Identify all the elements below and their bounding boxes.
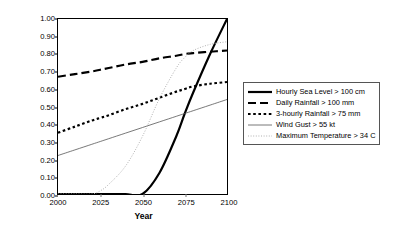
y-tick-mark [55,54,58,55]
y-tick-mark [55,125,58,126]
y-tick-mark [55,196,58,197]
x-tick-mark [186,194,187,197]
legend-item-label: Wind Gust > 55 kt [276,121,335,128]
series-line [58,42,227,194]
series-line [58,19,227,194]
series-line [58,82,227,133]
y-tick-label: 0.50 [31,104,55,112]
x-tick-mark [100,194,101,197]
legend-item[interactable]: Hourly Sea Level > 100 cm [247,86,375,97]
y-tick-mark [55,36,58,37]
plot-series-svg [58,19,227,194]
legend-line-swatch [247,120,273,130]
x-axis-title: Year [58,211,229,221]
y-tick-label: 0.10 [31,175,55,183]
legend-line-swatch [247,109,273,119]
chart-figure: 0.000.100.200.300.400.500.600.700.800.90… [0,0,407,243]
y-tick-label: 0.70 [31,68,55,76]
series-line [58,100,227,156]
y-tick-label: 0.20 [31,157,55,165]
legend-item-label: 3-hourly Rainfall > 75 mm [276,110,360,117]
x-tick-label: 2075 [178,199,195,207]
y-tick-label: 0.80 [31,51,55,59]
y-tick-mark [55,142,58,143]
legend-item-label: Maximum Temperature > 34 C [276,132,375,139]
x-tick-label: 2025 [92,199,109,207]
y-tick-label: 1.00 [31,15,55,23]
y-tick-label: 0.40 [31,121,55,129]
x-tick-label: 2100 [221,199,238,207]
y-tick-mark [55,72,58,73]
legend-line-swatch [247,87,273,97]
legend-item-label: Daily Rainfall > 100 mm [276,99,354,106]
legend-item[interactable]: Maximum Temperature > 34 C [247,130,375,141]
y-tick-mark [55,178,58,179]
legend-item-label: Hourly Sea Level > 100 cm [276,88,365,95]
x-tick-mark [143,194,144,197]
legend-item[interactable]: Daily Rainfall > 100 mm [247,97,375,108]
y-tick-label: 0.90 [31,33,55,41]
y-tick-label: 0.30 [31,139,55,147]
y-tick-mark [55,89,58,90]
chart-legend: Hourly Sea Level > 100 cmDaily Rainfall … [243,82,380,145]
y-tick-mark [55,19,58,20]
legend-line-swatch [247,131,273,141]
y-tick-mark [55,160,58,161]
x-tick-label: 2000 [50,199,67,207]
legend-line-swatch [247,98,273,108]
y-tick-mark [55,107,58,108]
legend-item[interactable]: 3-hourly Rainfall > 75 mm [247,108,375,119]
x-tick-label: 2050 [135,199,152,207]
y-tick-label: 0.60 [31,86,55,94]
legend-item[interactable]: Wind Gust > 55 kt [247,119,375,130]
plot-area: 0.000.100.200.300.400.500.600.700.800.90… [57,18,228,195]
